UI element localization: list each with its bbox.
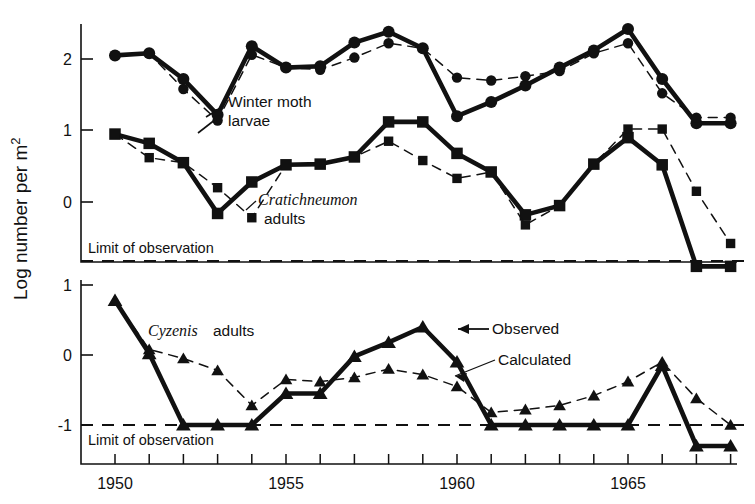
calculated-legend-label: Calculated xyxy=(498,351,571,368)
upper-panel: 2 1 0 Limit of observation Winter moth l… xyxy=(63,23,750,272)
x-axis-tick-label-1965: 1965 xyxy=(610,475,646,492)
data-point-marker xyxy=(520,71,530,81)
data-point-marker xyxy=(350,152,359,161)
lower-panel-series-group xyxy=(108,293,738,451)
data-point-marker xyxy=(418,156,427,165)
data-point-marker xyxy=(110,129,119,138)
y-axis-label-text: Log number per m xyxy=(10,145,31,300)
lower-limit-of-observation-label: Limit of observation xyxy=(88,432,214,448)
data-point-marker xyxy=(451,148,463,160)
upper-panel-series-group xyxy=(109,23,737,272)
data-point-marker xyxy=(211,364,224,375)
data-point-marker xyxy=(451,110,463,122)
cyzenis-annotation-italic: Cyzenis xyxy=(148,322,198,340)
data-point-marker xyxy=(247,50,257,60)
observed-arrowhead xyxy=(458,324,469,334)
data-point-marker xyxy=(109,294,122,305)
winter-moth-annotation-line2: larvae xyxy=(228,112,270,129)
data-point-marker xyxy=(555,201,564,210)
data-point-marker xyxy=(348,37,360,49)
upper-ytick-label-2: 2 xyxy=(63,51,72,68)
data-point-marker xyxy=(144,48,154,58)
lower-panel-yticks xyxy=(81,285,93,425)
data-point-marker xyxy=(623,38,633,48)
upper-panel-yticks xyxy=(81,59,93,202)
data-point-marker xyxy=(382,363,395,374)
data-point-marker xyxy=(485,406,498,417)
upper-limit-of-observation-label: Limit of observation xyxy=(88,240,214,256)
data-point-marker xyxy=(691,261,703,273)
data-point-marker xyxy=(213,183,222,192)
data-point-marker xyxy=(485,96,497,108)
x-axis-tick-label-1950: 1950 xyxy=(97,475,133,492)
cyzenis-annotation-plain: adults xyxy=(213,322,255,339)
data-point-marker xyxy=(316,159,325,168)
data-point-marker xyxy=(622,376,635,387)
data-point-marker xyxy=(487,167,496,176)
data-point-marker xyxy=(110,50,120,60)
data-point-marker xyxy=(725,261,737,273)
cratichneumon-leader-line xyxy=(246,201,256,210)
data-point-marker xyxy=(623,124,632,133)
data-point-marker xyxy=(349,52,359,62)
data-point-marker xyxy=(315,65,325,75)
data-point-marker xyxy=(451,381,464,392)
data-point-marker xyxy=(212,208,224,220)
data-point-marker xyxy=(281,160,290,169)
data-point-marker xyxy=(415,320,430,333)
svg-text:Log number per m2: Log number per m2 xyxy=(8,138,31,300)
data-point-marker xyxy=(246,176,257,188)
data-point-marker xyxy=(145,153,154,162)
winter-moth-annotation-line1: Winter moth xyxy=(228,93,312,110)
observed-legend-label: Observed xyxy=(492,320,559,337)
data-point-marker xyxy=(452,174,461,183)
data-point-marker xyxy=(280,374,293,385)
data-point-marker xyxy=(143,138,155,150)
chart-canvas: Log number per m2 2 1 0 Limit of observa… xyxy=(0,0,755,504)
data-point-marker xyxy=(384,137,393,146)
y-axis-label-superscript: 2 xyxy=(8,138,23,145)
data-point-marker xyxy=(725,112,735,122)
y-axis-label: Log number per m2 xyxy=(8,138,31,300)
data-point-marker xyxy=(177,73,189,85)
winter-moth-leader-line-2 xyxy=(198,119,216,133)
data-point-marker xyxy=(656,159,668,171)
data-point-marker xyxy=(691,112,701,122)
lower-ytick-label-1: 1 xyxy=(63,277,72,294)
lower-ytick-label-0: 0 xyxy=(63,347,72,364)
data-point-marker xyxy=(486,75,496,85)
series-cratichneumon-adults-calculated xyxy=(110,124,735,248)
series-cyzenis-adults-calculated xyxy=(109,294,737,429)
data-point-marker xyxy=(521,220,530,229)
data-point-marker xyxy=(179,158,188,167)
figure-container: Log number per m2 2 1 0 Limit of observa… xyxy=(0,0,755,504)
lower-ytick-label-neg1: -1 xyxy=(58,417,72,434)
data-point-marker xyxy=(177,353,190,364)
data-point-marker xyxy=(281,62,291,72)
data-point-marker xyxy=(417,116,429,128)
data-point-marker xyxy=(589,48,599,58)
series-line xyxy=(115,43,731,120)
data-point-marker xyxy=(247,213,256,222)
lower-panel: 1 0 -1 Limit of observation 195019551960… xyxy=(58,277,750,492)
data-point-marker xyxy=(692,187,701,196)
data-point-marker xyxy=(656,73,668,85)
data-point-marker xyxy=(656,356,669,367)
data-point-marker xyxy=(383,116,395,128)
data-point-marker xyxy=(658,124,667,133)
series-winter-moth-larvae-observed xyxy=(109,23,737,129)
x-axis-tick-label-1955: 1955 xyxy=(268,475,304,492)
cratichneumon-annotation-italic: Cratichneumon xyxy=(258,191,358,208)
x-axis-tick-label-1960: 1960 xyxy=(439,475,475,492)
data-point-marker xyxy=(657,88,667,98)
data-point-marker xyxy=(452,72,462,82)
data-point-marker xyxy=(383,38,393,48)
upper-ytick-label-0: 0 xyxy=(63,194,72,211)
data-point-marker xyxy=(418,43,428,53)
x-axis-tick-labels: 1950195519601965 xyxy=(97,475,646,492)
data-point-marker xyxy=(726,239,735,248)
data-point-marker xyxy=(178,84,188,94)
data-point-marker xyxy=(588,390,601,401)
data-point-marker xyxy=(622,23,634,35)
upper-ytick-label-1: 1 xyxy=(63,122,72,139)
